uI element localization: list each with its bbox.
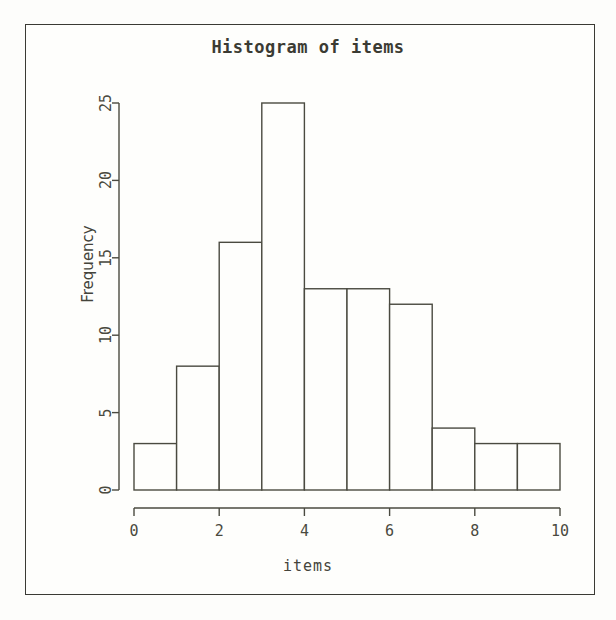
y-tick-label: 25 — [97, 83, 115, 123]
y-tick-label: 10 — [97, 315, 115, 355]
chart-page: Histogram of items 0510152025 0246810 Fr… — [0, 0, 616, 620]
y-tick-label: 20 — [97, 160, 115, 200]
x-tick-label: 10 — [540, 522, 580, 540]
x-axis-title: items — [0, 557, 616, 575]
x-tick-label: 6 — [370, 522, 410, 540]
y-tick-label: 15 — [97, 238, 115, 278]
x-tick-label: 2 — [199, 522, 239, 540]
chart-title: Histogram of items — [0, 37, 616, 57]
y-tick-label: 5 — [97, 393, 115, 433]
x-tick-label: 0 — [114, 522, 154, 540]
x-tick-label: 8 — [455, 522, 495, 540]
x-tick-label: 4 — [284, 522, 324, 540]
y-axis-title: Frequency — [79, 204, 97, 324]
y-tick-label: 0 — [97, 470, 115, 510]
